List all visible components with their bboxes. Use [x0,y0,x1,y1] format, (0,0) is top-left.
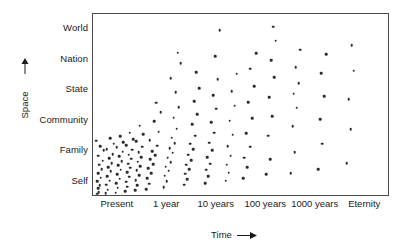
scatter-point [100,176,103,179]
scatter-point [125,180,128,183]
scatter-point [142,133,145,136]
scatter-point [345,162,348,165]
scatter-point [167,170,170,173]
scatter-point [111,153,114,156]
scatter-point [128,176,131,179]
scatter-point [291,125,294,128]
scatter-point [249,145,252,148]
scatter-point [115,146,118,149]
scatter-point [179,62,182,65]
scatter-point [294,66,297,69]
scatter-point [168,147,171,150]
scatter-point [146,177,149,180]
scatter-point [190,159,193,162]
scatter-point [265,173,268,176]
scatter-point [116,186,119,189]
scatter-point [163,186,166,189]
scatter-point [114,191,117,194]
scatter-point [229,154,232,157]
scatter-point [226,145,229,148]
scatter-point [141,145,144,148]
scatter-point [116,173,119,176]
scatter-point [215,107,218,110]
scatter-point [219,29,222,32]
scatter-point [174,91,177,94]
scatter-point [289,172,292,175]
scatter-point [249,68,252,71]
scatter-point [98,191,101,194]
scatter-point [112,142,115,145]
scatter-point [156,144,159,147]
scatter-point [293,151,296,154]
scatter-point [165,180,168,183]
x-axis-tick-1000-years: 1000 years [291,198,338,210]
scatter-point [135,140,138,143]
scatter-point [117,164,120,167]
scatter-point [131,148,134,151]
scatter-point [145,188,148,191]
scatter-point [120,160,123,163]
scatter-points-layer [93,14,388,195]
scatter-point [273,76,276,79]
scatter-point [198,87,201,90]
scatter-point [192,148,195,151]
y-axis-tick-self: Self [0,176,88,186]
scatter-point [191,123,194,126]
scatter-point [186,178,189,181]
scatter-point [158,130,161,133]
scatter-point [243,156,246,159]
scatter-point [115,182,118,185]
scatter-point [205,168,208,171]
y-axis-tick-world: World [0,23,88,33]
scatter-point [170,136,173,139]
plot-area [92,13,389,196]
scatter-point [295,106,298,109]
scatter-point [134,189,137,192]
scatter-point [139,165,142,168]
scatter-point [97,172,100,175]
scatter-point [121,150,124,153]
scatter-point [126,185,129,188]
scatter-point [204,182,207,185]
scatter-point [246,166,249,169]
scatter-point [224,179,227,182]
scatter-point [235,72,238,75]
scatter-point [97,154,100,157]
scatter-point [323,95,326,98]
scatter-point [97,187,100,190]
scatter-point [189,142,192,145]
scatter-point [233,104,236,107]
scatter-point [105,183,108,186]
scatter-plot-figure: Space SelfFamilyCommunityStateNationWorl… [0,0,410,248]
scatter-point [211,149,214,152]
scatter-point [184,173,187,176]
scatter-point [231,133,234,136]
x-axis-tick-10-years: 10 years [198,198,234,210]
scatter-point [350,44,353,47]
scatter-point [105,148,108,151]
scatter-point [213,132,216,135]
scatter-point [108,179,111,182]
scatter-point [299,48,302,51]
scatter-point [176,51,179,54]
scatter-point [98,164,101,167]
scatter-point [171,151,174,154]
scatter-point [130,158,133,161]
scatter-point [210,121,213,124]
scatter-point [183,183,186,186]
scatter-point [251,117,254,120]
scatter-point [242,177,245,180]
scatter-point [325,53,328,56]
x-axis-tick-1-year: 1 year [153,198,179,210]
x-axis-title: Time [0,224,410,238]
scatter-point [127,162,130,165]
scatter-point [95,139,98,142]
scatter-point [195,71,198,74]
scatter-point [163,174,166,177]
scatter-point [227,171,230,174]
scatter-point [106,175,109,178]
scatter-point [118,177,121,180]
scatter-point [275,39,278,42]
scatter-point [138,124,141,127]
scatter-point [209,162,212,165]
